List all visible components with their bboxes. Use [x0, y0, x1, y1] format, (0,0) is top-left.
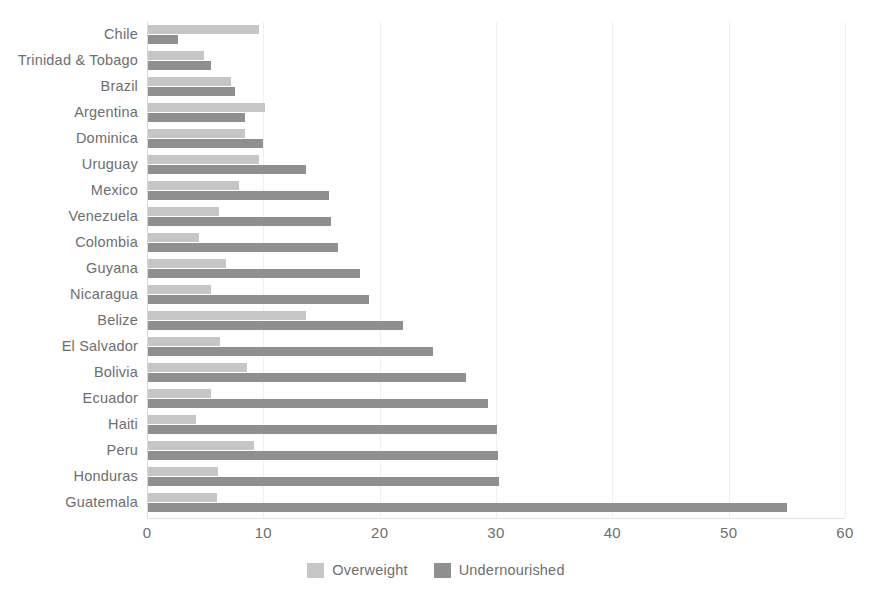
category-label: Guyana — [0, 257, 138, 279]
legend-swatch-icon — [434, 563, 451, 578]
bar-undernourished[interactable] — [148, 347, 433, 356]
chart-row: Colombia — [147, 230, 845, 256]
bar-chart: ChileTrinidad & TobagoBrazilArgentinaDom… — [0, 0, 872, 597]
category-label: Argentina — [0, 101, 138, 123]
category-label: Trinidad & Tobago — [0, 49, 138, 71]
bar-overweight[interactable] — [148, 389, 211, 398]
chart-row: Haiti — [147, 412, 845, 438]
bar-overweight[interactable] — [148, 233, 199, 242]
category-label: Brazil — [0, 75, 138, 97]
category-label: Colombia — [0, 231, 138, 253]
category-label: Uruguay — [0, 153, 138, 175]
bar-undernourished[interactable] — [148, 451, 498, 460]
bar-overweight[interactable] — [148, 155, 259, 164]
bar-overweight[interactable] — [148, 181, 239, 190]
bar-overweight[interactable] — [148, 207, 219, 216]
x-axis-line — [147, 518, 845, 519]
category-label: Belize — [0, 309, 138, 331]
x-tick-label: 0 — [143, 524, 152, 541]
chart-row: Chile — [147, 22, 845, 48]
category-label: Guatemala — [0, 491, 138, 513]
category-label: Nicaragua — [0, 283, 138, 305]
category-label: Peru — [0, 439, 138, 461]
bar-overweight[interactable] — [148, 337, 220, 346]
bar-undernourished[interactable] — [148, 269, 360, 278]
bar-undernourished[interactable] — [148, 399, 488, 408]
x-tick-label: 30 — [487, 524, 504, 541]
x-axis-tick-labels: 0102030405060 — [147, 524, 845, 554]
plot-area: ChileTrinidad & TobagoBrazilArgentinaDom… — [147, 22, 845, 518]
chart-row: Bolivia — [147, 360, 845, 386]
x-tick-label: 50 — [720, 524, 737, 541]
bar-undernourished[interactable] — [148, 373, 466, 382]
chart-row: Brazil — [147, 74, 845, 100]
category-label: Bolivia — [0, 361, 138, 383]
category-label: Dominica — [0, 127, 138, 149]
legend-label: Overweight — [332, 562, 407, 578]
category-label: Venezuela — [0, 205, 138, 227]
legend-swatch-icon — [307, 563, 324, 578]
chart-row: Uruguay — [147, 152, 845, 178]
bar-undernourished[interactable] — [148, 243, 338, 252]
bar-undernourished[interactable] — [148, 295, 369, 304]
bar-overweight[interactable] — [148, 103, 265, 112]
x-tick-label: 40 — [604, 524, 621, 541]
bar-overweight[interactable] — [148, 415, 196, 424]
bar-overweight[interactable] — [148, 493, 217, 502]
chart-row: Dominica — [147, 126, 845, 152]
bar-undernourished[interactable] — [148, 321, 403, 330]
chart-row: Argentina — [147, 100, 845, 126]
bar-undernourished[interactable] — [148, 477, 499, 486]
bar-overweight[interactable] — [148, 311, 306, 320]
bar-overweight[interactable] — [148, 51, 204, 60]
bar-undernourished[interactable] — [148, 503, 787, 512]
bar-overweight[interactable] — [148, 285, 211, 294]
x-tick-label: 60 — [836, 524, 853, 541]
bar-undernourished[interactable] — [148, 191, 329, 200]
chart-row: Mexico — [147, 178, 845, 204]
bar-overweight[interactable] — [148, 259, 226, 268]
chart-row: Guyana — [147, 256, 845, 282]
gridline-60 — [845, 22, 846, 518]
chart-row: Nicaragua — [147, 282, 845, 308]
bar-undernourished[interactable] — [148, 113, 245, 122]
chart-row: Ecuador — [147, 386, 845, 412]
bar-undernourished[interactable] — [148, 87, 235, 96]
bar-undernourished[interactable] — [148, 425, 497, 434]
chart-row: Guatemala — [147, 490, 845, 516]
bar-undernourished[interactable] — [148, 35, 178, 44]
chart-row: Belize — [147, 308, 845, 334]
bar-overweight[interactable] — [148, 363, 247, 372]
category-label: El Salvador — [0, 335, 138, 357]
bar-overweight[interactable] — [148, 441, 254, 450]
bar-overweight[interactable] — [148, 25, 259, 34]
category-label: Chile — [0, 23, 138, 45]
category-label: Mexico — [0, 179, 138, 201]
category-label: Ecuador — [0, 387, 138, 409]
bar-undernourished[interactable] — [148, 139, 263, 148]
chart-row: Honduras — [147, 464, 845, 490]
bar-overweight[interactable] — [148, 467, 218, 476]
chart-row: El Salvador — [147, 334, 845, 360]
category-label: Haiti — [0, 413, 138, 435]
bar-undernourished[interactable] — [148, 217, 331, 226]
chart-legend: OverweightUndernourished — [0, 562, 872, 578]
chart-row: Trinidad & Tobago — [147, 48, 845, 74]
bar-overweight[interactable] — [148, 77, 231, 86]
x-tick-label: 20 — [371, 524, 388, 541]
x-tick-label: 10 — [255, 524, 272, 541]
bar-undernourished[interactable] — [148, 61, 211, 70]
legend-item-overweight[interactable]: Overweight — [307, 562, 407, 578]
legend-label: Undernourished — [459, 562, 565, 578]
chart-row: Venezuela — [147, 204, 845, 230]
category-label: Honduras — [0, 465, 138, 487]
bar-overweight[interactable] — [148, 129, 245, 138]
chart-row: Peru — [147, 438, 845, 464]
legend-item-undernourished[interactable]: Undernourished — [434, 562, 565, 578]
bar-undernourished[interactable] — [148, 165, 306, 174]
